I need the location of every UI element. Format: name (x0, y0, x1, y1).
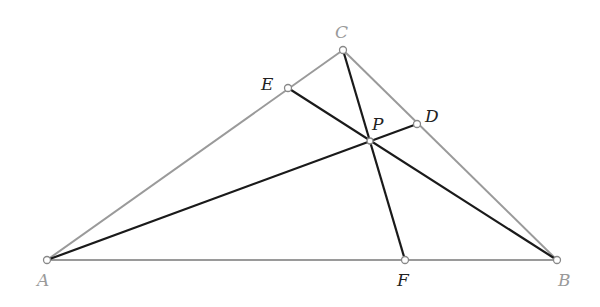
label-d: D (425, 108, 439, 125)
label-f: F (397, 272, 409, 289)
label-b: B (558, 272, 571, 289)
point-a (44, 257, 51, 264)
cevian-ad (47, 124, 417, 260)
label-e: E (261, 76, 273, 93)
triangle-sides (47, 50, 557, 260)
side-ca (47, 50, 343, 260)
cevian-be (288, 88, 557, 260)
label-p: P (372, 116, 383, 133)
point-e (285, 85, 292, 92)
point-f (402, 257, 409, 264)
point-c (340, 47, 347, 54)
label-a: A (37, 272, 49, 289)
point-p (367, 138, 373, 144)
triangle-diagram (0, 0, 600, 307)
point-b (554, 257, 561, 264)
label-c: C (335, 24, 348, 41)
point-d (414, 121, 421, 128)
cevians (47, 50, 557, 260)
